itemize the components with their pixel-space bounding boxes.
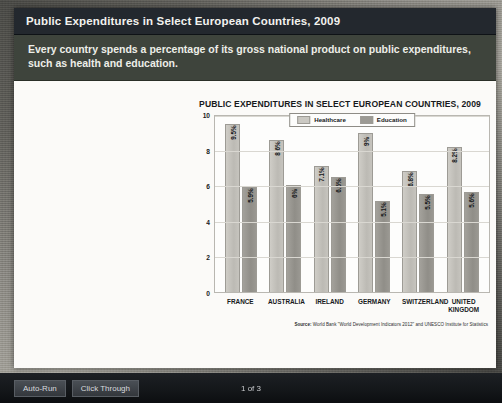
bar-healthcare: 8.2% (447, 147, 462, 292)
bar-value-label: 8.6% (273, 141, 280, 155)
bar-group: 6.8%5.5% (402, 116, 434, 292)
gridline (215, 257, 489, 258)
x-label-switzerland: SWITZERLAND (402, 298, 436, 314)
bar-groups: 9.5%5.9%8.6%6%7.1%6.5%9%5.1%6.8%5.5%8.2%… (215, 116, 489, 292)
bar-healthcare: 9.5% (225, 124, 240, 292)
bar-value-label: 5.1% (379, 203, 386, 217)
bar-value-label: 9.5% (229, 125, 236, 139)
slide-title: Public Expenditures in Select European C… (26, 15, 340, 27)
source-text: World Bank "World Development Indicators… (313, 322, 488, 327)
bar-group: 8.2%5.6% (447, 116, 479, 292)
legend-swatch-healthcare (297, 116, 310, 124)
x-axis-labels: FRANCEAUSTRALIAIRELANDGERMANYSWITZERLAND… (214, 293, 490, 314)
bar-value-label: 8.2% (451, 148, 458, 162)
bar-healthcare: 6.8% (402, 171, 417, 292)
chart-legend: Healthcare Education (289, 113, 415, 127)
y-tick-6: 6 (206, 183, 210, 190)
legend-label-education: Education (377, 116, 407, 123)
bar-healthcare: 9% (358, 133, 373, 292)
legend-item-healthcare: Healthcare (297, 116, 346, 124)
bar-value-label: 7.1% (318, 167, 325, 181)
gridline (215, 186, 489, 187)
bar-chart: PUBLIC EXPENDITURES IN SELECT EUROPEAN C… (190, 99, 490, 361)
legend-item-education: Education (360, 116, 407, 124)
bar-healthcare: 8.6% (269, 140, 284, 292)
slide-subtitle-bar: Every country spends a percentage of its… (14, 35, 496, 81)
x-label-germany: GERMANY (357, 298, 391, 314)
plot-area: 9.5%5.9%8.6%6%7.1%6.5%9%5.1%6.8%5.5%8.2%… (214, 115, 490, 293)
x-label-united-kingdom: UNITED KINGDOM (447, 298, 481, 314)
y-tick-2: 2 (206, 254, 210, 261)
chart-title: PUBLIC EXPENDITURES IN SELECT EUROPEAN C… (190, 99, 490, 109)
bar-education: 6.5% (331, 177, 346, 292)
bar-value-label: 6.5% (335, 178, 342, 192)
legend-swatch-education (360, 116, 373, 124)
x-label-australia: AUSTRALIA (268, 298, 302, 314)
bar-education: 5.5% (419, 194, 434, 292)
bar-group: 9%5.1% (358, 116, 390, 292)
slide-body: PUBLIC EXPENDITURES IN SELECT EUROPEAN C… (14, 81, 496, 368)
auto-run-button[interactable]: Auto-Run (14, 380, 66, 397)
bar-education: 6% (286, 185, 301, 292)
x-label-france: FRANCE (223, 298, 257, 314)
slide-title-bar: Public Expenditures in Select European C… (14, 8, 496, 35)
source-prefix: Source: (294, 322, 311, 327)
legend-label-healthcare: Healthcare (314, 116, 346, 123)
bar-education: 5.1% (375, 201, 390, 292)
gridline (215, 151, 489, 152)
presentation-slide: Public Expenditures in Select European C… (14, 8, 496, 368)
y-tick-10: 10 (203, 111, 210, 118)
bar-group: 9.5%5.9% (225, 116, 257, 292)
bar-value-label: 5.5% (423, 195, 430, 209)
bar-group: 8.6%6% (269, 116, 301, 292)
y-tick-4: 4 (206, 218, 210, 225)
bar-group: 7.1%6.5% (314, 116, 346, 292)
y-tick-0: 0 (206, 289, 210, 296)
bar-value-label: 9% (362, 137, 369, 146)
bar-healthcare: 7.1% (314, 166, 329, 292)
player-toolbar: Auto-Run Click Through 1 of 3 (0, 373, 502, 403)
chart-source-note: Source: World Bank "World Development In… (190, 322, 490, 327)
click-through-button[interactable]: Click Through (72, 380, 139, 397)
bar-value-label: 5.6% (468, 194, 475, 208)
bar-value-label: 5.9% (246, 188, 253, 202)
bar-value-label: 6% (290, 189, 297, 198)
x-label-ireland: IRELAND (313, 298, 347, 314)
y-tick-8: 8 (206, 147, 210, 154)
bar-education: 5.6% (464, 192, 479, 292)
slide-subtitle: Every country spends a percentage of its… (28, 42, 482, 71)
bar-value-label: 6.8% (406, 173, 413, 187)
y-axis-ticks: 1086420 (192, 115, 210, 293)
gridline (215, 222, 489, 223)
bar-education: 5.9% (242, 187, 257, 292)
plot-wrapper: PERCENTAGE GNP 1086420 9.5%5.9%8.6%6%7.1… (214, 115, 490, 293)
